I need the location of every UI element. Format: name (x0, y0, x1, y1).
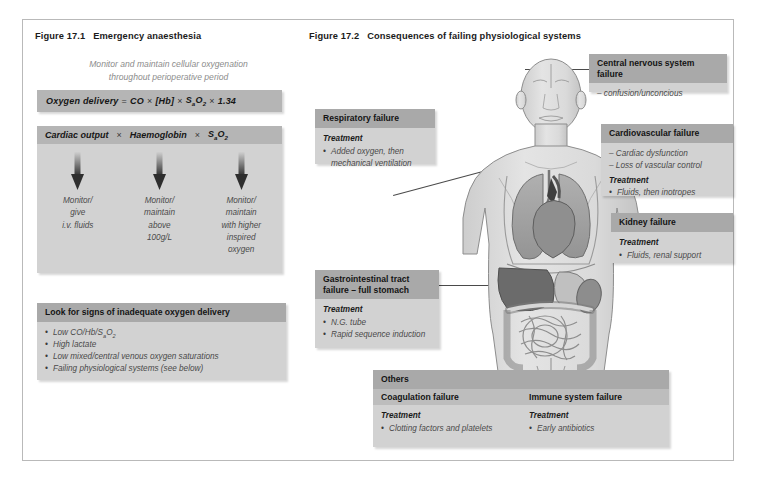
cns-failure-detail: – confusion/unconcious (597, 88, 719, 100)
respiratory-failure-body: Treatment Added oxygen, then mechanical … (315, 128, 435, 176)
formula-term-constant: 1.34 (218, 96, 236, 106)
determinants-header: Cardiac output × Haemoglobin × SaO2 (37, 126, 282, 144)
formula-op-1: × (144, 96, 155, 106)
list-item: Failing physiological systems (see below… (45, 363, 278, 375)
gi-title-line2: failure – full stomach (323, 285, 431, 296)
list-item: Early antibiotics (529, 423, 661, 435)
determinant-hb-line4: 100g/L (119, 232, 201, 244)
signs-panel-header: Look for signs of inadequate oxygen deli… (37, 303, 286, 322)
cns-failure-body: – confusion/unconcious (589, 83, 727, 106)
list-item: Fluids, then inotropes (609, 187, 725, 199)
list-item: High lactate (45, 339, 278, 351)
determinant-head-haemoglobin: Haemoglobin (130, 130, 187, 140)
gi-treatment-label: Treatment (323, 304, 431, 316)
page-root: Figure 17.1Emergency anaesthesia Monitor… (0, 0, 759, 483)
determinant-sao2-line5: oxygen (200, 244, 282, 256)
others-immune-title: Immune system failure (521, 389, 669, 405)
immune-treatment-label: Treatment (529, 410, 661, 422)
coagulation-treatment-label: Treatment (381, 410, 513, 422)
others-box: Others Coagulation failure Immune system… (373, 370, 669, 447)
formula-term-co: CO (130, 96, 144, 106)
kidney-treatment-label: Treatment (619, 237, 725, 249)
respiratory-failure-title: Respiratory failure (315, 109, 435, 128)
cardiovascular-failure-box: Cardiovascular failure – Cardiac dysfunc… (601, 124, 733, 196)
list-item: N.G. tube (323, 317, 431, 329)
respiratory-failure-box: Respiratory failure Treatment Added oxyg… (315, 109, 435, 164)
kidney-failure-body: Treatment Fluids, renal support (611, 232, 733, 268)
signs-panel-body: Low CO/Hb/SaO2 High lactate Low mixed/ce… (37, 322, 286, 381)
formula-op-3: × (206, 96, 217, 106)
determinant-sao2-line1: Monitor/ (200, 195, 282, 207)
figure-17-2-caption: Figure 17.2Consequences of failing physi… (309, 31, 581, 41)
cardiovascular-failure-title: Cardiovascular failure (601, 124, 733, 143)
figure-17-1-title: Emergency anaesthesia (93, 31, 201, 41)
gastrointestinal-failure-title: Gastrointestinal tract failure – full st… (315, 270, 439, 299)
determinant-column-haemoglobin: Monitor/ maintain above 100g/L (119, 152, 201, 256)
left-subtitle-line2: throughout perioperative period (61, 71, 276, 84)
cardiovascular-detail-2: – Loss of vascular control (609, 160, 725, 172)
gastrointestinal-failure-box: Gastrointestinal tract failure – full st… (315, 270, 439, 348)
figure-17-2-title: Consequences of failing physiological sy… (367, 31, 581, 41)
cardiovascular-treatment-label: Treatment (609, 175, 725, 187)
respiratory-treatment-label: Treatment (323, 133, 427, 145)
others-immune-body: Treatment Early antibiotics (521, 405, 669, 441)
formula-term-hb: [Hb] (155, 96, 174, 106)
figure-17-1-number: Figure 17.1 (35, 31, 85, 41)
determinant-co-line3: i.v. fluids (37, 220, 119, 232)
list-item: Low CO/Hb/SaO2 (45, 327, 278, 340)
inadequate-oxygen-signs-panel: Look for signs of inadequate oxygen deli… (37, 303, 286, 380)
determinant-head-sao2: SaO2 (208, 129, 228, 141)
list-item: Low mixed/central venous oxygen saturati… (45, 351, 278, 363)
determinant-co-line2: give (37, 207, 119, 219)
list-item: Rapid sequence induction (323, 329, 431, 341)
formula-label: Oxygen delivery (46, 96, 119, 106)
formula-term-sao2: SaO2 (186, 95, 207, 107)
figure-17-1-caption: Figure 17.1Emergency anaesthesia (35, 31, 201, 41)
determinant-co-line1: Monitor/ (37, 195, 119, 207)
figure-17-2-number: Figure 17.2 (309, 31, 359, 41)
list-item: Added oxygen, then mechanical ventilatio… (323, 146, 427, 170)
list-item: Clotting factors and platelets (381, 423, 513, 435)
kidney-failure-box: Kidney failure Treatment Fluids, renal s… (611, 213, 733, 263)
others-coagulation-title: Coagulation failure (373, 389, 521, 405)
list-item: Fluids, renal support (619, 250, 725, 262)
others-coagulation-body: Treatment Clotting factors and platelets (373, 405, 521, 441)
cardiovascular-detail-1: – Cardiac dysfunction (609, 148, 725, 160)
determinant-head-cardiac-output: Cardiac output (45, 130, 109, 140)
determinant-sao2-line4: inspired (200, 232, 282, 244)
determinant-column-cardiac-output: Monitor/ give i.v. fluids (37, 152, 119, 256)
formula-equals: = (119, 96, 130, 106)
determinant-sao2-line2: maintain (200, 207, 282, 219)
determinant-hb-line1: Monitor/ (119, 195, 201, 207)
determinant-column-sao2: Monitor/ maintain with higher inspired o… (200, 152, 282, 256)
others-subheader-row: Coagulation failure Immune system failur… (373, 389, 669, 405)
down-arrow-icon (153, 152, 166, 190)
determinant-hb-line2: maintain (119, 207, 201, 219)
figure-frame: Figure 17.1Emergency anaesthesia Monitor… (22, 19, 734, 461)
cns-failure-title: Central nervous system failure (589, 54, 727, 83)
cardiovascular-failure-body: – Cardiac dysfunction – Loss of vascular… (601, 143, 733, 206)
left-subtitle-line1: Monitor and maintain cellular oxygenatio… (61, 58, 276, 71)
determinant-head-op-2: × (187, 130, 208, 140)
down-arrow-icon (235, 152, 248, 190)
others-title: Others (373, 370, 669, 389)
determinant-head-op-1: × (109, 130, 130, 140)
down-arrow-icon (71, 152, 84, 190)
kidney-failure-title: Kidney failure (611, 213, 733, 232)
others-content-row: Treatment Clotting factors and platelets… (373, 405, 669, 441)
left-subtitle: Monitor and maintain cellular oxygenatio… (61, 58, 276, 85)
gastrointestinal-failure-body: Treatment N.G. tube Rapid sequence induc… (315, 299, 439, 347)
cns-failure-box: Central nervous system failure – confusi… (589, 54, 727, 92)
determinant-sao2-line3: with higher (200, 220, 282, 232)
oxygen-determinants-panel: Cardiac output × Haemoglobin × SaO2 Moni… (37, 126, 282, 273)
oxygen-delivery-formula: Oxygen delivery = CO × [Hb] × SaO2 × 1.3… (37, 90, 282, 112)
gi-title-line1: Gastrointestinal tract (323, 274, 431, 285)
determinant-hb-line3: above (119, 220, 201, 232)
formula-op-2: × (174, 96, 185, 106)
